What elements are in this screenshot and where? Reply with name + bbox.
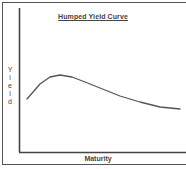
x-axis-label: Maturity xyxy=(0,155,186,162)
chart-plot xyxy=(0,0,186,169)
yield-curve-line xyxy=(27,75,180,109)
